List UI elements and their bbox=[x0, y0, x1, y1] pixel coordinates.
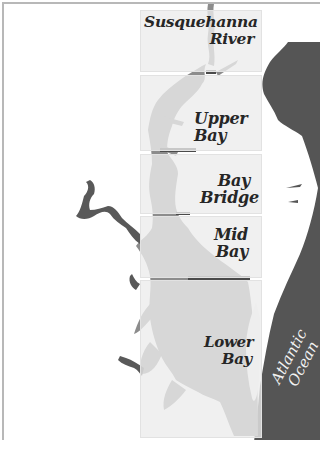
label-susquehanna-river: Susquehanna River bbox=[144, 13, 254, 47]
label-bay-bridge: Bay Bridge bbox=[200, 172, 258, 206]
label-line: Bay bbox=[208, 243, 248, 260]
map-frame: Susquehanna River Upper Bay Bay Bridge M… bbox=[2, 2, 320, 440]
map-credit-footer bbox=[152, 441, 320, 451]
tributary-west-2 bbox=[129, 274, 140, 290]
label-line: Mid bbox=[208, 226, 248, 243]
label-line: Bay bbox=[204, 351, 252, 368]
label-upper-bay: Upper Bay bbox=[194, 110, 254, 144]
label-line: Bridge bbox=[200, 189, 258, 206]
label-line: Lower bbox=[204, 334, 252, 351]
label-lower-bay: Lower Bay bbox=[204, 334, 252, 368]
label-line: River bbox=[144, 30, 254, 47]
label-mid-bay: Mid Bay bbox=[208, 226, 248, 260]
label-line: Bay bbox=[200, 172, 258, 189]
label-line: Upper bbox=[194, 110, 254, 127]
label-line: Bay bbox=[194, 127, 254, 144]
potomac-river-shape bbox=[76, 180, 140, 244]
label-line: Susquehanna bbox=[144, 13, 254, 30]
